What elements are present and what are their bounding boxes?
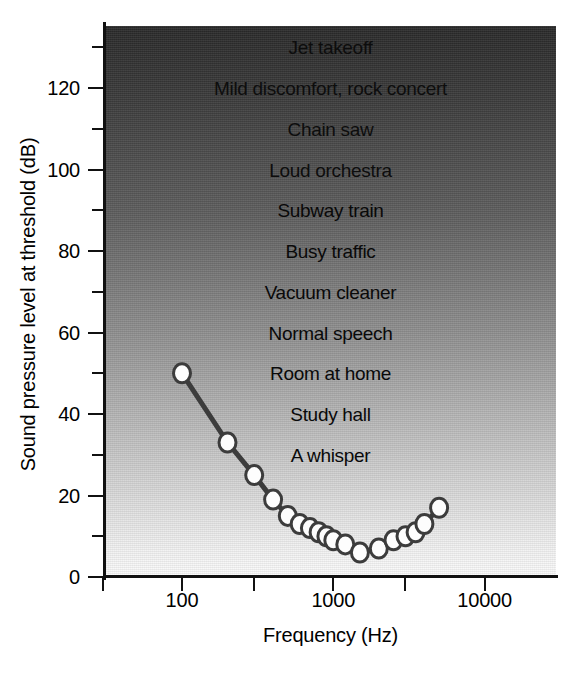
y-tick-110	[92, 128, 105, 130]
annotation-normal-speech: Normal speech	[105, 324, 556, 343]
y-tick-70	[92, 291, 105, 293]
page-bottom-edge	[0, 668, 577, 679]
x-tick-label-100: 100	[122, 590, 242, 610]
y-tick-label-0: 0	[6, 567, 80, 587]
y-tick-120	[88, 87, 105, 89]
annotation-vacuum-cleaner: Vacuum cleaner	[105, 283, 556, 302]
annotation-chain-saw: Chain saw	[105, 120, 556, 139]
x-tick-label-10000: 10000	[425, 590, 545, 610]
x-axis-title: Frequency (Hz)	[105, 624, 556, 647]
y-tick-20	[88, 495, 105, 497]
annotation-loud-orchestra: Loud orchestra	[105, 161, 556, 180]
x-tick-3000	[404, 577, 406, 591]
annotation-room-at-home: Room at home	[105, 364, 556, 383]
annotation-jet-takeoff: Jet takeoff	[105, 38, 556, 57]
y-tick-130	[92, 46, 105, 48]
sound-pressure-threshold-chart: 020406080100120 100100010000 Jet takeoff…	[0, 0, 577, 679]
annotation-busy-traffic: Busy traffic	[105, 242, 556, 261]
y-tick-40	[88, 413, 105, 415]
annotation-study-hall: Study hall	[105, 405, 556, 424]
x-tick-300	[253, 577, 255, 591]
annotation-mild-discomfort-rock-concert: Mild discomfort, rock concert	[105, 79, 556, 98]
y-tick-10	[92, 535, 105, 537]
y-tick-60	[88, 332, 105, 334]
annotation-a-whisper: A whisper	[105, 446, 556, 465]
y-tick-80	[88, 250, 105, 252]
x-axis-line	[103, 575, 558, 578]
y-tick-50	[92, 372, 105, 374]
y-tick-90	[92, 209, 105, 211]
y-tick-100	[88, 169, 105, 171]
y-axis-title: Sound pressure level at threshold (dB)	[17, 70, 40, 540]
annotation-subway-train: Subway train	[105, 201, 556, 220]
y-tick-30	[92, 454, 105, 456]
x-tick-label-1000: 1000	[273, 590, 393, 610]
x-tick-30	[102, 577, 104, 591]
